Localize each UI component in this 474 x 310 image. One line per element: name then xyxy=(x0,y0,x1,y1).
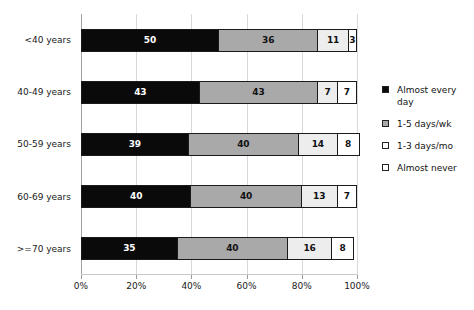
x-axis-tick-label-1: 20% xyxy=(126,281,146,291)
legend-item-0[interactable]: Almost every day xyxy=(382,84,474,108)
legend-item-label: Almost never xyxy=(397,162,457,174)
bar-segment-value: 40 xyxy=(240,192,252,201)
bar-segment: 43 xyxy=(81,81,200,104)
y-axis-category-label-1: 40-49 years xyxy=(0,66,76,118)
plot-area: 5036113434377394014840401373540168 xyxy=(81,14,357,275)
bar-segment: 35 xyxy=(81,237,178,260)
bar-segment: 40 xyxy=(177,237,288,260)
bar-row: 4040137 xyxy=(81,171,357,223)
stacked-bar: 5036113 xyxy=(81,29,357,52)
x-axis-tick-80 xyxy=(302,275,303,279)
x-axis-tick-label-3: 60% xyxy=(237,281,257,291)
y-axis-category-label-4: >=70 years xyxy=(0,223,76,275)
y-axis-category-labels: <40 years40-49 years50-59 years60-69 yea… xyxy=(0,14,76,275)
bar-segment: 50 xyxy=(81,29,219,52)
bar-segment: 39 xyxy=(81,133,189,156)
x-axis-tick-label-0: 0% xyxy=(74,281,88,291)
bar-segment-value: 13 xyxy=(313,192,325,201)
bar-segment-value: 40 xyxy=(237,140,249,149)
bar-segment: 7 xyxy=(337,185,357,208)
x-axis-tick-60 xyxy=(247,275,248,279)
bar-segment: 43 xyxy=(199,81,319,104)
bar-segment: 7 xyxy=(317,81,337,104)
legend-item-label: 1-3 days/mo xyxy=(397,140,453,152)
bar-segment-value: 11 xyxy=(327,36,339,45)
x-axis-tick-label-5: 100% xyxy=(344,281,370,291)
x-axis-tick-0 xyxy=(81,275,82,279)
bar-segment: 14 xyxy=(298,133,338,156)
legend-item-1[interactable]: 1-5 days/wk xyxy=(382,118,474,130)
legend-item-label: Almost every day xyxy=(397,84,471,108)
x-axis-tick-100 xyxy=(357,275,358,279)
bar-segment: 40 xyxy=(190,185,301,208)
bar-segment-value: 40 xyxy=(226,244,238,253)
bar-segment: 40 xyxy=(81,185,191,208)
bar-segment-value: 8 xyxy=(345,140,351,149)
bar-rows: 5036113434377394014840401373540168 xyxy=(81,14,357,275)
stacked-bar: 3940148 xyxy=(81,133,357,156)
bar-segment-value: 7 xyxy=(344,192,350,201)
bar-segment: 16 xyxy=(287,237,332,260)
bar-segment-value: 3 xyxy=(349,36,355,45)
bar-row: 3940148 xyxy=(81,118,357,170)
legend-swatch-1-3-days-mo xyxy=(382,142,389,149)
bar-segment: 11 xyxy=(317,29,348,52)
chart-legend: Almost every day1-5 days/wk1-3 days/moAl… xyxy=(382,84,474,184)
x-axis-tick-label-2: 40% xyxy=(181,281,201,291)
y-axis-category-label-3: 60-69 years xyxy=(0,171,76,223)
legend-item-2[interactable]: 1-3 days/mo xyxy=(382,140,474,152)
x-axis-ticks xyxy=(81,275,357,280)
bar-segment-value: 16 xyxy=(303,244,315,253)
bar-segment-value: 14 xyxy=(312,140,324,149)
bar-segment: 3 xyxy=(348,29,357,52)
bar-segment-value: 43 xyxy=(134,88,146,97)
bar-row: 434377 xyxy=(81,66,357,118)
x-axis-tick-label-4: 80% xyxy=(292,281,312,291)
bar-segment-value: 35 xyxy=(123,244,135,253)
bar-segment: 40 xyxy=(188,133,299,156)
legend-item-3[interactable]: Almost never xyxy=(382,162,474,174)
stacked-bar: 4040137 xyxy=(81,185,357,208)
x-axis-tick-labels: 0%20%40%60%80%100% xyxy=(81,281,357,295)
legend-swatch-almost-never xyxy=(382,164,389,171)
stacked-bar: 434377 xyxy=(81,81,357,104)
x-axis-tick-20 xyxy=(136,275,137,279)
bar-segment-value: 8 xyxy=(340,244,346,253)
bar-segment-value: 50 xyxy=(144,36,156,45)
bar-segment-value: 43 xyxy=(252,88,264,97)
bar-segment: 8 xyxy=(331,237,354,260)
bar-segment: 36 xyxy=(218,29,318,52)
bar-segment: 13 xyxy=(301,185,338,208)
bar-segment: 8 xyxy=(337,133,360,156)
legend-swatch-almost-every-day xyxy=(382,86,389,93)
legend-swatch-1-5-days-wk xyxy=(382,120,389,127)
bar-segment-value: 40 xyxy=(130,192,142,201)
stacked-bar-chart: <40 years40-49 years50-59 years60-69 yea… xyxy=(0,0,474,310)
bar-segment-value: 7 xyxy=(324,88,330,97)
y-axis-category-label-0: <40 years xyxy=(0,14,76,66)
bar-segment-value: 36 xyxy=(262,36,274,45)
bar-segment: 7 xyxy=(337,81,357,104)
x-axis-tick-40 xyxy=(191,275,192,279)
stacked-bar: 3540168 xyxy=(81,237,357,260)
bar-segment-value: 39 xyxy=(129,140,141,149)
bar-row: 5036113 xyxy=(81,14,357,66)
legend-item-label: 1-5 days/wk xyxy=(397,118,451,130)
bar-row: 3540168 xyxy=(81,223,357,275)
bar-segment-value: 7 xyxy=(344,88,350,97)
y-axis-category-label-2: 50-59 years xyxy=(0,118,76,170)
